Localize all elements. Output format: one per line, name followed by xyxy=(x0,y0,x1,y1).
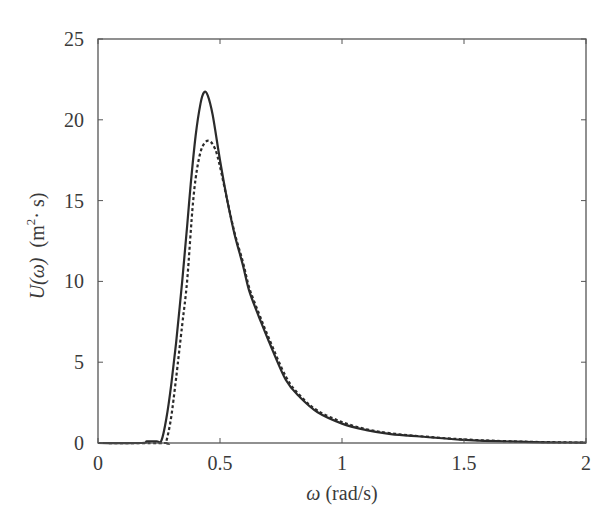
y-axis-symbol: U(ω) xyxy=(26,257,49,299)
y-axis-ticks: 0510152025 xyxy=(64,28,586,454)
x-tick-label: 2 xyxy=(581,452,591,474)
y-tick-label: 10 xyxy=(64,270,84,292)
y-axis-unit-end: · s) xyxy=(26,193,49,219)
series-line-solid xyxy=(98,92,586,443)
y-tick-label: 5 xyxy=(74,351,84,373)
x-axis-symbol: ω xyxy=(306,482,320,504)
x-tick-label: 0.5 xyxy=(208,452,233,474)
x-tick-label: 1.5 xyxy=(452,452,477,474)
y-tick-label: 0 xyxy=(74,432,84,454)
x-axis-unit: (rad/s) xyxy=(320,482,377,505)
x-tick-label: 1 xyxy=(337,452,347,474)
y-tick-label: 15 xyxy=(64,190,84,212)
y-tick-label: 25 xyxy=(64,28,84,50)
y-tick-label: 20 xyxy=(64,109,84,131)
y-axis-unit: (m xyxy=(26,225,49,248)
series-line-dashed xyxy=(98,141,586,444)
y-axis-label: U(ω)(m2· s) xyxy=(23,193,49,300)
x-axis-label: ω (rad/s) xyxy=(306,482,377,505)
plot-lines xyxy=(98,92,586,444)
chart: 00.511.52 0510152025 ω (rad/s) U(ω)(m2· … xyxy=(0,0,614,531)
x-tick-label: 0 xyxy=(93,452,103,474)
